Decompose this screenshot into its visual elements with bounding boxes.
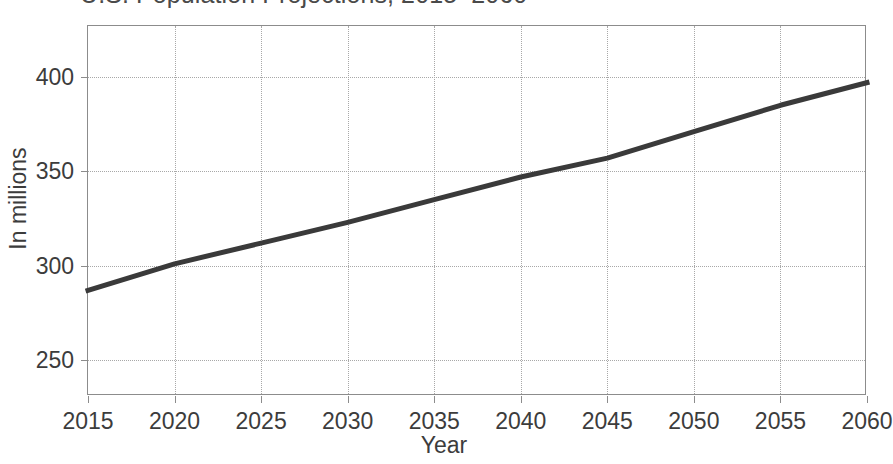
x-axis-tick-label: 2020 <box>149 408 200 435</box>
x-axis-tick-label: 2060 <box>841 408 892 435</box>
x-axis-tick-label: 2050 <box>668 408 719 435</box>
population-trend-line <box>88 83 867 291</box>
x-axis-title: Year <box>0 432 888 459</box>
plot-area: 250300350400 201520202025203020352040204… <box>87 25 866 395</box>
y-axis-tick <box>81 266 88 267</box>
x-axis-tick <box>867 396 868 403</box>
x-axis-tick-label: 2025 <box>236 408 287 435</box>
y-axis-tick-label: 250 <box>36 347 74 374</box>
y-axis-tick-label: 350 <box>36 158 74 185</box>
x-axis-tick <box>694 396 695 403</box>
x-axis-tick <box>607 396 608 403</box>
x-axis-tick-label: 2015 <box>62 408 113 435</box>
chart-title: U.S. Population Projections, 2015–2060 <box>80 0 527 9</box>
y-axis-tick-label: 300 <box>36 252 74 279</box>
x-axis-tick-label: 2045 <box>582 408 633 435</box>
x-axis-tick <box>434 396 435 403</box>
x-axis-tick <box>780 396 781 403</box>
x-axis-tick <box>521 396 522 403</box>
x-axis-tick <box>261 396 262 403</box>
x-axis-tick <box>348 396 349 403</box>
y-axis-tick-label: 400 <box>36 63 74 90</box>
x-axis-tick-label: 2035 <box>409 408 460 435</box>
y-axis-tick <box>81 360 88 361</box>
x-axis-tick <box>175 396 176 403</box>
x-axis-tick <box>88 396 89 403</box>
data-series-layer <box>88 26 867 396</box>
x-axis-tick-label: 2040 <box>495 408 546 435</box>
x-axis-tick-label: 2030 <box>322 408 373 435</box>
y-axis-tick <box>81 77 88 78</box>
x-axis-tick-label: 2055 <box>755 408 806 435</box>
y-axis-tick <box>81 171 88 172</box>
y-axis-title: In millions <box>5 119 32 279</box>
